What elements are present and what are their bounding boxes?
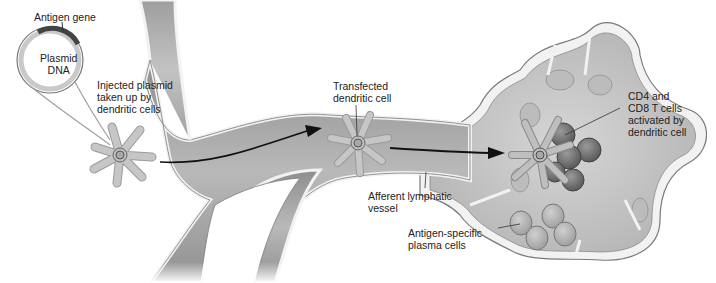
label-t-cells-activated: CD4 and CD8 T cells activated by dendrit… [628,90,686,138]
label-plasmid-dna: Plasmid DNA [40,52,77,76]
diagram-artwork [0,0,716,283]
label-plasma-cells: Antigen-specific plasma cells [408,227,482,251]
label-transfected-dendritic-cell: Transfected dendritic cell [333,80,391,104]
label-injected-plasmid: Injected plasmid taken up by dendritic c… [97,79,173,115]
label-afferent-lymphatic-vessel: Afferent lymphatic vessel [368,190,452,214]
dendritic-cell-injected [94,127,152,183]
label-antigen-gene: Antigen gene [34,11,96,23]
diagram-canvas: Antigen gene Plasmid DNA Injected plasmi… [0,0,716,283]
